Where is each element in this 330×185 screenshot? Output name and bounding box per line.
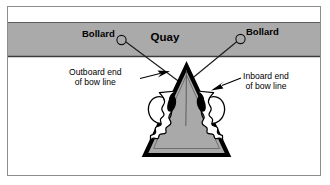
figure-root: Quay Bollard Bollard Outboard end of bow… xyxy=(0,0,330,185)
arrow-down-left-icon xyxy=(211,82,224,91)
outboard-callout-line2: of bow line xyxy=(69,78,122,88)
inboard-callout-arrow xyxy=(211,78,241,91)
inboard-arrow-shaft xyxy=(222,78,241,86)
inboard-callout-line2: of bow line xyxy=(243,82,289,92)
outboard-end-callout: Outboard end of bow line xyxy=(69,68,122,87)
quay-label: Quay xyxy=(0,31,330,44)
outboard-callout-arrow xyxy=(140,70,170,78)
outboard-arrow-shaft xyxy=(140,74,160,79)
bollard-right-label: Bollard xyxy=(246,27,279,38)
inboard-end-callout: Inboard end of bow line xyxy=(243,72,289,91)
diagram-canvas xyxy=(0,0,330,185)
bollard-left-label: Bollard xyxy=(82,29,115,40)
